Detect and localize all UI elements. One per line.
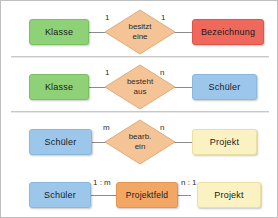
- cardinality-text: n: [160, 123, 164, 132]
- relationship-label: Projektfeld: [126, 190, 168, 200]
- cardinality-label-right: n : 1: [181, 178, 197, 187]
- cardinality-text: 1: [161, 13, 165, 22]
- cardinality-text: n : 1: [181, 178, 197, 187]
- er-relationship-row: Schüler m bearb. ein n Projekt: [1, 111, 278, 167]
- diamond-shape-icon: [104, 64, 176, 110]
- entity-box-klasse[interactable]: Klasse: [29, 19, 89, 45]
- entity-label: Klasse: [45, 27, 73, 37]
- entity-label: Schüler: [44, 190, 76, 200]
- entity-label: Klasse: [45, 82, 73, 92]
- er-diagram-canvas: Klasse 1 besitzt eine 1 Bezeichnung Klas…: [0, 0, 278, 218]
- er-relationship-row: Klasse 1 besteht aus n Schüler: [1, 56, 278, 112]
- cardinality-label-right: 1: [161, 13, 165, 22]
- entity-label: Schüler: [45, 137, 77, 147]
- entity-box-klasse[interactable]: Klasse: [29, 74, 89, 100]
- diamond-shape-icon: [104, 119, 176, 165]
- connector-line-left: [89, 195, 119, 196]
- entity-box-bezeichnung[interactable]: Bezeichnung: [192, 19, 264, 45]
- cardinality-label-right: n: [160, 123, 164, 132]
- er-relationship-row: Schüler 1 : m Projektfeld n : 1 Projekt: [1, 164, 278, 218]
- entity-label: Projekt: [210, 137, 239, 147]
- cardinality-text: 1 : m: [93, 178, 111, 187]
- cardinality-label-left: 1 : m: [93, 178, 111, 187]
- cardinality-text: n: [160, 68, 164, 77]
- entity-box-projekt[interactable]: Projekt: [197, 182, 261, 208]
- entity-box-schueler[interactable]: Schüler: [192, 74, 257, 100]
- relationship-box-projektfeld[interactable]: Projektfeld: [116, 182, 178, 208]
- entity-box-projekt[interactable]: Projekt: [192, 129, 257, 155]
- entity-box-schueler[interactable]: Schüler: [29, 129, 92, 155]
- er-relationship-row: Klasse 1 besitzt eine 1 Bezeichnung: [1, 1, 278, 57]
- entity-box-schueler[interactable]: Schüler: [29, 182, 91, 208]
- relationship-diamond-bearbeitet-ein[interactable]: bearb. ein: [104, 119, 176, 165]
- cardinality-label-right: n: [160, 68, 164, 77]
- entity-label: Bezeichnung: [201, 27, 255, 37]
- entity-label: Schüler: [209, 82, 241, 92]
- relationship-diamond-besteht-aus[interactable]: besteht aus: [104, 64, 176, 110]
- entity-label: Projekt: [214, 190, 243, 200]
